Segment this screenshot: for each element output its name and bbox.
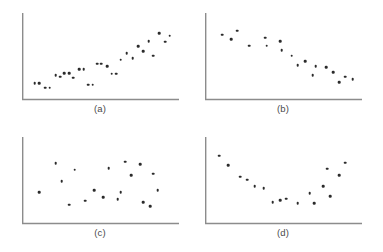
data-point (72, 76, 75, 79)
data-point (108, 167, 111, 170)
data-point (168, 34, 171, 37)
panel-a-points (22, 13, 178, 99)
data-point (239, 175, 242, 178)
data-point (48, 86, 51, 89)
data-point (54, 162, 57, 165)
data-point (93, 189, 96, 192)
data-point (34, 82, 37, 85)
data-point (116, 198, 119, 201)
data-point (148, 40, 151, 43)
data-point (68, 203, 71, 206)
data-point (91, 83, 94, 86)
data-point (152, 54, 155, 57)
data-point (96, 62, 99, 65)
data-point (152, 172, 155, 175)
data-point (227, 164, 230, 167)
data-point (139, 163, 142, 166)
data-point (351, 78, 354, 81)
data-point (313, 202, 316, 205)
data-point (218, 154, 221, 157)
panel-c-caption: (c) (22, 227, 178, 238)
data-point (344, 161, 347, 164)
data-point (38, 191, 41, 194)
panel-b-points (205, 13, 361, 99)
data-point (308, 192, 311, 195)
data-point (248, 44, 251, 47)
data-point (74, 168, 77, 171)
data-point (142, 50, 145, 53)
data-point (63, 72, 66, 75)
data-point (119, 191, 122, 194)
data-point (124, 161, 127, 164)
data-point (246, 178, 249, 181)
data-point (326, 168, 329, 171)
data-point (279, 40, 282, 43)
data-point (87, 83, 90, 86)
data-point (230, 38, 233, 41)
data-point (100, 62, 103, 65)
data-point (131, 57, 134, 60)
data-point (164, 40, 167, 43)
data-point (265, 44, 268, 47)
data-point (142, 201, 145, 204)
data-point (325, 66, 328, 69)
panel-a-caption: (a) (22, 103, 178, 114)
data-point (106, 65, 109, 68)
data-point (332, 71, 335, 74)
data-point (78, 68, 81, 71)
data-point (236, 30, 239, 33)
panel-c (22, 137, 178, 223)
data-point (221, 33, 224, 36)
data-point (84, 200, 87, 203)
data-point (264, 37, 267, 40)
data-point (311, 74, 314, 77)
panel-b-caption: (b) (205, 103, 361, 114)
data-point (344, 76, 347, 79)
panel-a (22, 13, 178, 99)
data-point (262, 187, 265, 190)
data-point (102, 196, 105, 199)
data-point (254, 185, 257, 188)
data-point (111, 72, 114, 75)
data-point (158, 32, 161, 35)
data-point (304, 60, 307, 63)
data-point (322, 185, 325, 188)
data-point (149, 205, 152, 208)
scatterplot-figure: (a) (b) (c) (d) (0, 0, 383, 252)
data-point (44, 86, 47, 89)
panel-d (205, 137, 361, 223)
data-point (119, 58, 122, 61)
data-point (130, 174, 133, 177)
data-point (137, 45, 140, 48)
data-point (54, 74, 57, 77)
data-point (156, 189, 159, 192)
data-point (280, 49, 283, 52)
data-point (338, 81, 341, 84)
data-point (60, 180, 63, 183)
data-point (279, 199, 282, 202)
data-point (82, 68, 85, 71)
panel-c-points (22, 137, 178, 223)
data-point (68, 72, 71, 75)
data-point (115, 72, 118, 75)
data-point (291, 54, 294, 57)
data-point (271, 201, 274, 204)
data-point (314, 65, 317, 68)
panel-b (205, 13, 361, 99)
data-point (338, 174, 341, 177)
data-point (59, 76, 62, 79)
data-point (297, 64, 300, 67)
data-point (297, 202, 300, 205)
data-point (329, 195, 332, 198)
panel-d-points (205, 137, 361, 223)
data-point (38, 82, 41, 85)
data-point (285, 197, 288, 200)
data-point (125, 52, 128, 55)
panel-d-caption: (d) (205, 227, 361, 238)
